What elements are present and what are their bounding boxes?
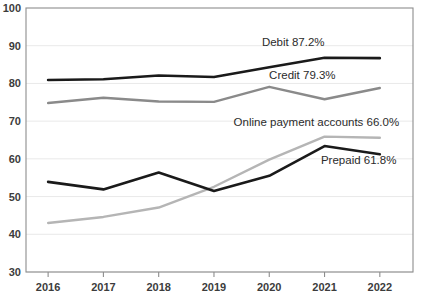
- y-tick-label-60: 60: [9, 153, 21, 165]
- y-tick-label-90: 90: [9, 40, 21, 52]
- y-tick-label-40: 40: [9, 228, 21, 240]
- series-line-credit: [48, 87, 380, 103]
- series-annotation-debit-87-2: Debit 87.2%: [262, 36, 325, 48]
- series-annotation-credit-79-3: Credit 79.3%: [269, 69, 335, 81]
- y-tick-label-50: 50: [9, 191, 21, 203]
- y-tick-label-30: 30: [9, 266, 21, 278]
- x-tick-label-2017: 2017: [91, 281, 115, 293]
- x-tick-label-2020: 2020: [257, 281, 281, 293]
- x-tick-label-2018: 2018: [146, 281, 170, 293]
- y-axis-tick-labels: 10090807060504030: [3, 2, 21, 278]
- x-tick-label-2021: 2021: [312, 281, 336, 293]
- line-chart: 10090807060504030 2016201720182019202020…: [0, 0, 424, 299]
- data-series-lines: [48, 58, 380, 223]
- series-annotations: Debit 87.2%Credit 79.3%Online payment ac…: [234, 36, 400, 165]
- series-line-prepaid: [48, 146, 380, 191]
- series-annotation-online-payment-accounts-66-0: Online payment accounts 66.0%: [234, 116, 400, 128]
- chart-canvas: 10090807060504030 2016201720182019202020…: [0, 0, 424, 299]
- series-line-online-payment-accounts: [48, 137, 380, 223]
- y-tick-label-70: 70: [9, 115, 21, 127]
- series-annotation-prepaid-61-8: Prepaid 61.8%: [321, 154, 396, 166]
- plot-border: [26, 8, 413, 272]
- x-tick-label-2022: 2022: [368, 281, 392, 293]
- y-tick-label-80: 80: [9, 77, 21, 89]
- y-tick-label-100: 100: [3, 2, 21, 14]
- x-axis-tick-labels: 2016201720182019202020212022: [36, 281, 392, 293]
- plot-frame: [26, 8, 413, 272]
- x-axis-tick-marks: [48, 272, 380, 277]
- x-tick-label-2019: 2019: [202, 281, 226, 293]
- x-tick-label-2016: 2016: [36, 281, 60, 293]
